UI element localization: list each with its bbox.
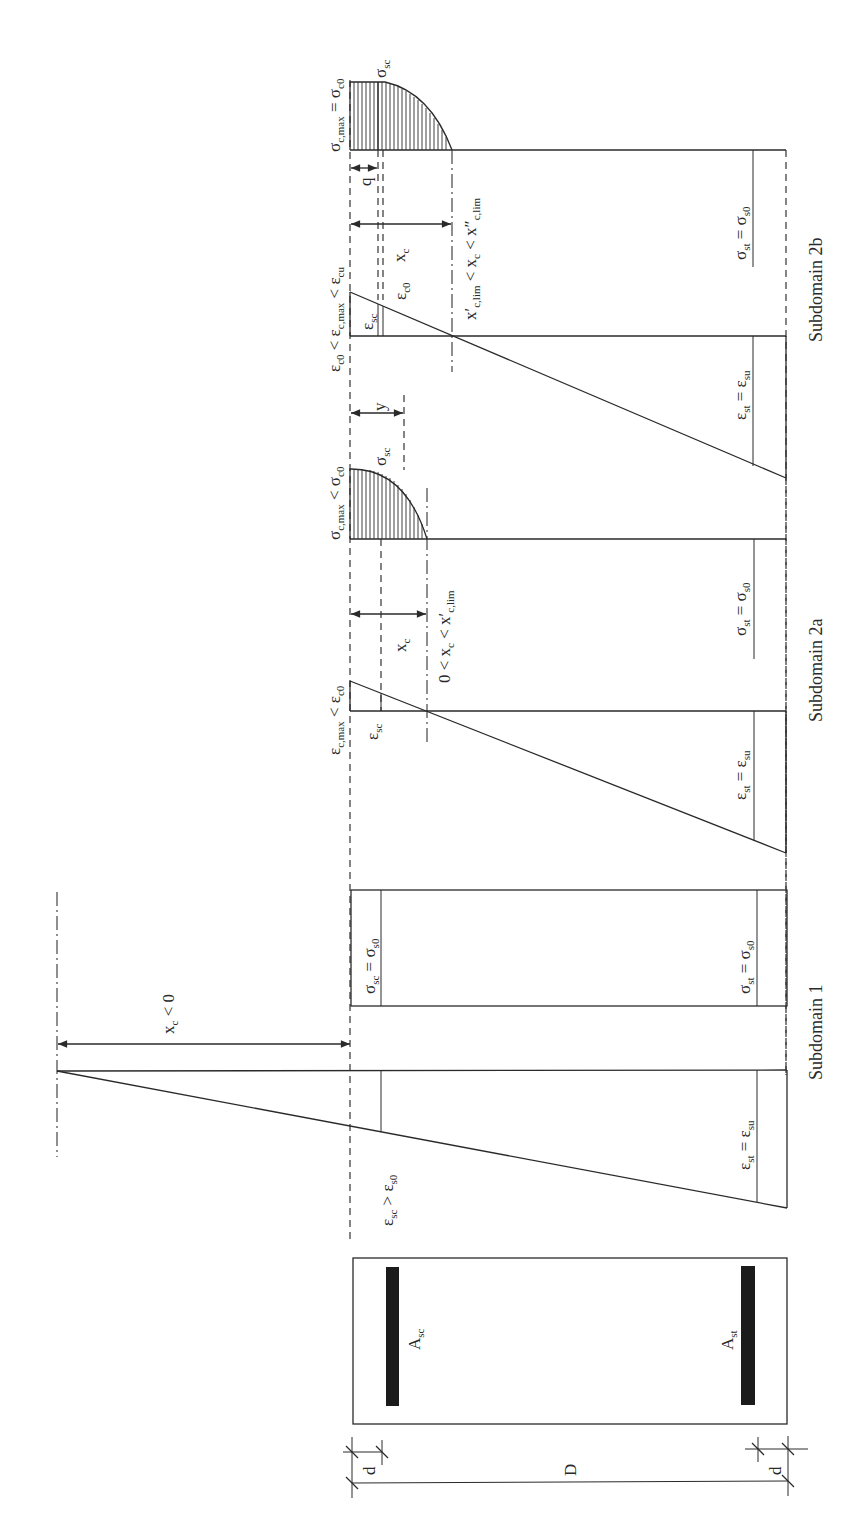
strain-diagram-2a [350,681,786,853]
compression-steel-bar [386,1267,399,1406]
label-d-top: d [360,1466,379,1475]
dimension-D-line [352,1481,788,1483]
label-xc-2a: xc [391,639,412,653]
label-stress-sc-1: σsc = σs0 [360,938,381,994]
subdomain-2b: σc,max = σc0 σsc q xc x′c,lim < xc < x″c… [325,60,826,1075]
caption-subdomain-1: Subdomain 1 [806,984,826,1080]
label-strain-max-2a: εc,max < εc0 [325,685,346,755]
stress-block-1 [351,890,787,1006]
label-d-bottom: d [766,1466,785,1475]
strain-profile-1 [57,1071,787,1208]
stress-diagram-2a [350,469,786,659]
label-D: D [561,1464,580,1476]
label-strain-st-1: εst = εsu [735,1120,756,1170]
strain-profile-2a [350,681,786,853]
label-strain-sc-2a: εsc [363,724,384,740]
label-stress-sc-2b: σsc [371,60,392,78]
stress-diagram-2b [350,82,786,267]
label-strain-c0-2b: εc0 [391,282,412,300]
strain-diagram-1 [57,1070,787,1208]
subdomain-1: xc < 0 σsc = σs0 σst = σs0 εsc > εs0 εst… [57,890,826,1226]
label-xc-negative: xc < 0 [159,994,180,1034]
caption-subdomain-2a: Subdomain 2a [806,618,826,722]
cross-section: Asc Ast d d D [343,1258,808,1498]
label-xc-2b: xc [390,249,411,263]
label-strain-st-2b: εst = εsu [731,370,752,420]
strain-profile-2b [350,292,786,478]
label-ast: Ast [718,1330,739,1350]
strain-baseline-1 [57,1070,787,1071]
label-q: q [356,177,375,186]
label-stress-st-1: σst = σs0 [735,940,756,994]
label-stress-st-2a: σst = σs0 [731,582,752,636]
section-boundary-lines [350,80,786,1240]
diagram-canvas: σc,max = σc0 σsc q xc x′c,lim < xc < x″c… [0,0,863,1534]
label-range-2b: x′c,lim < xc < x″c,lim [461,198,482,320]
label-strain-st-2a: εst = εsu [731,750,752,800]
label-asc: Asc [405,1328,426,1350]
tension-steel-bar [741,1266,755,1405]
label-stress-max-2b: σc,max = σc0 [325,78,346,152]
label-y: y [370,402,389,411]
subdomain-2a: σc,max < σc0 σsc y xc 0 < xc < x′c,lim ε… [325,402,826,853]
stress-hatching-2b [354,82,446,150]
label-stress-sc-2a: σsc [371,448,392,466]
label-strain-sc-1: εsc > εs0 [378,1174,399,1226]
label-stress-st-2b: σst = σs0 [731,206,752,260]
strain-diagram-2b [350,292,786,478]
label-stress-max-2a: σc,max < σc0 [325,466,346,540]
stress-parabola-2b [350,82,452,150]
stress-diagram-1 [351,890,787,1006]
label-strain-max-2b: εc0 < εc,max < εcu [325,267,346,372]
label-range-2a: 0 < xc < x′c,lim [435,590,456,683]
label-strain-sc-2b: εsc [358,314,379,330]
caption-subdomain-2b: Subdomain 2b [806,237,826,342]
